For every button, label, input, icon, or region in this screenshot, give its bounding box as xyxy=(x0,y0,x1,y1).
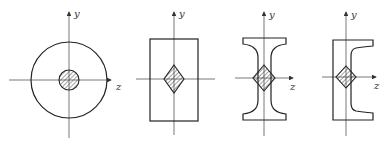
panel-i-beam-section: y z xyxy=(235,9,296,136)
z-axis-label: z xyxy=(289,81,296,92)
panel-rectangle-section: y xyxy=(136,8,215,135)
z-axis-label: z xyxy=(115,81,122,92)
core-rhombus xyxy=(253,65,275,91)
z-axis-label: z xyxy=(373,80,380,91)
cross-sections-diagram: y z y y z y z xyxy=(0,0,382,148)
y-axis-label: y xyxy=(178,8,185,19)
y-axis-label: y xyxy=(350,9,357,20)
core-rhombus xyxy=(336,66,356,88)
panel-circle-section: y z xyxy=(9,8,122,138)
core-rhombus xyxy=(164,65,184,93)
panel-channel-section: y z xyxy=(322,9,380,136)
core-circle xyxy=(59,70,79,90)
y-axis-label: y xyxy=(268,9,275,20)
y-axis-label: y xyxy=(73,8,80,19)
